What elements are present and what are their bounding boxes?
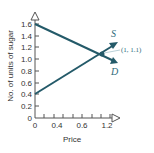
x-tick-label: 0.6 [76, 121, 88, 130]
x-ticks [44, 114, 110, 118]
x-tick-label: 1.2 [101, 121, 113, 130]
x-tick-label: 0 [33, 121, 38, 130]
series-demand [35, 24, 118, 64]
y-tick-label: 1.4 [21, 32, 33, 41]
equilibrium-annotation: (1, 1.1) [121, 46, 142, 54]
y-axis-label: No. of units of sugar [6, 30, 15, 102]
x-tick-label: 0.4 [51, 121, 63, 130]
chart: 0 0.2 0.4 0.6 0.8 1.0 1.2 1.4 1.6 0 0.4 … [0, 0, 154, 153]
y-tick-labels: 0 0.2 0.4 0.6 0.8 1.0 1.2 1.4 1.6 [21, 20, 33, 123]
y-tick-label: 0.6 [21, 79, 33, 88]
supply-label: S [111, 28, 116, 39]
y-axis-arrow-icon [31, 12, 39, 20]
y-tick-label: 0.2 [21, 102, 33, 111]
x-axis-arrow-icon [112, 114, 120, 122]
series-supply [35, 42, 118, 94]
x-axis-label: Price [63, 135, 82, 144]
y-tick-label: 1.2 [21, 43, 33, 52]
x-tick-labels: 0 0.4 0.6 1.2 [33, 121, 113, 130]
y-axis [31, 12, 39, 118]
y-tick-label: 0.8 [21, 67, 33, 76]
equilibrium-point [100, 52, 105, 57]
y-tick-label: 1.0 [21, 55, 33, 64]
demand-label: D [110, 66, 119, 77]
y-tick-label: 0.4 [21, 90, 33, 99]
y-tick-label: 1.6 [21, 20, 33, 29]
